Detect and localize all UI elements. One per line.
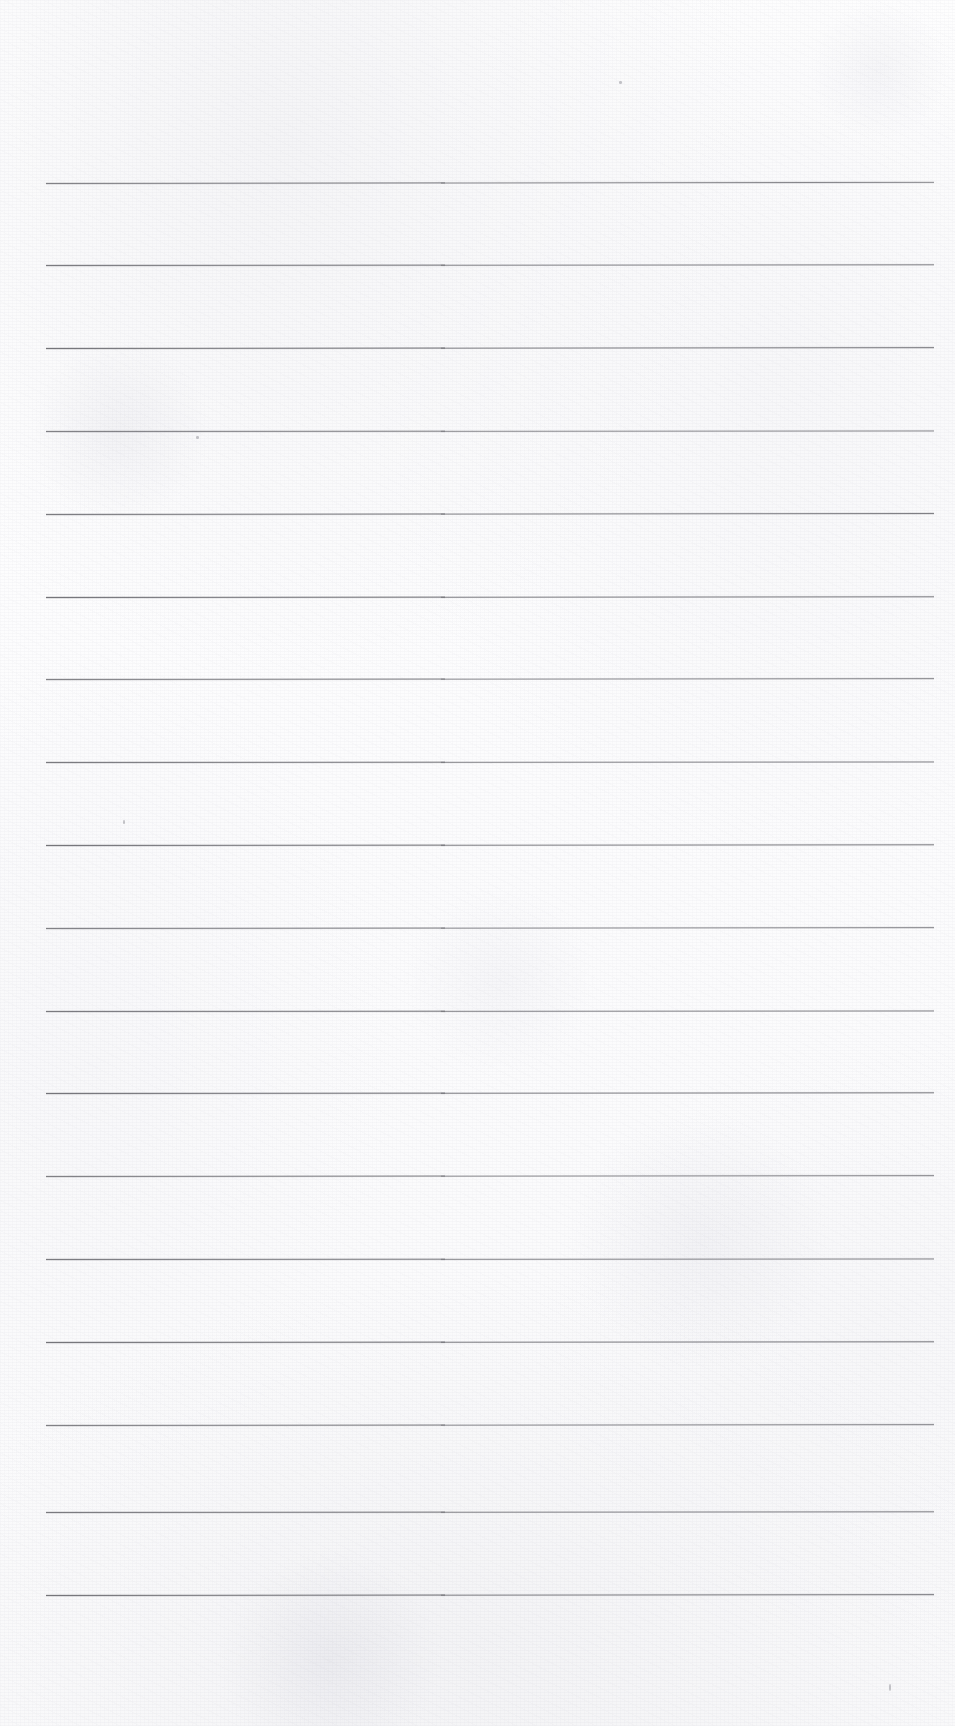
- ruled-line-segment-right: [441, 1592, 934, 1596]
- ruled-line-segment-left: [46, 1593, 445, 1596]
- ruled-line-segment-right: [441, 1257, 934, 1260]
- ruled-line-segment-right: [441, 1009, 934, 1012]
- ruled-line: [46, 264, 932, 268]
- scan-speck: [196, 436, 199, 439]
- ruled-line: [46, 1257, 932, 1261]
- ruled-line: [46, 1593, 932, 1597]
- ruled-line: [46, 595, 932, 599]
- ruled-line-segment-left: [46, 347, 445, 350]
- ruled-line-segment-right: [441, 181, 934, 185]
- ruled-line-segment-left: [46, 1340, 445, 1343]
- ruled-line-segment-left: [46, 1423, 445, 1426]
- ruled-line-segment-right: [441, 263, 934, 266]
- ruled-line: [46, 429, 932, 433]
- ruled-line-segment-left: [46, 761, 445, 764]
- ruled-line-segment-left: [46, 1009, 445, 1012]
- ruled-line: [46, 1423, 932, 1427]
- ruled-line-segment-left: [46, 1175, 445, 1178]
- ruled-line: [46, 1340, 932, 1344]
- ruled-line: [46, 926, 932, 930]
- ruled-line: [46, 1510, 932, 1514]
- scanned-page: [0, 0, 955, 1726]
- ruled-line-segment-right: [441, 1510, 934, 1513]
- scan-speck: [123, 820, 125, 824]
- ruled-line: [46, 180, 932, 184]
- ruled-line-segment-left: [46, 678, 445, 681]
- ruled-line: [46, 1092, 932, 1096]
- ruled-line-segment-right: [441, 760, 934, 763]
- scan-speck: [619, 81, 622, 84]
- ruled-line: [46, 1009, 932, 1013]
- ruled-line-segment-right: [441, 926, 934, 930]
- ruled-line-segment-right: [441, 347, 934, 351]
- ruled-line-segment-right: [441, 843, 934, 846]
- ruled-line-segment-left: [46, 1258, 445, 1261]
- ruled-line-segment-right: [441, 429, 934, 432]
- ruled-line-segment-right: [441, 1422, 934, 1426]
- scan-speck: [889, 1684, 891, 1691]
- ruled-line-segment-left: [46, 1092, 445, 1095]
- ruled-line: [46, 512, 932, 516]
- ruled-line-segment-left: [46, 181, 445, 185]
- ruled-line-segment-left: [46, 844, 445, 847]
- ruled-line: [46, 760, 932, 764]
- ruled-line-segment-left: [46, 264, 445, 267]
- ruled-line-segment-left: [46, 1510, 445, 1513]
- ruled-lines-layer: [0, 0, 955, 1726]
- ruled-line-segment-left: [46, 512, 445, 515]
- ruled-line: [46, 1174, 932, 1178]
- ruled-line-segment-left: [46, 595, 445, 598]
- ruled-line: [46, 346, 932, 350]
- ruled-line-segment-right: [441, 678, 934, 682]
- ruled-line-segment-left: [46, 926, 445, 929]
- ruled-line: [46, 843, 932, 847]
- ruled-line-segment-right: [441, 594, 934, 597]
- ruled-line-segment-right: [441, 512, 934, 516]
- ruled-line-segment-right: [441, 1175, 934, 1179]
- ruled-line-segment-right: [441, 1340, 934, 1343]
- ruled-line-segment-right: [441, 1091, 934, 1094]
- ruled-line: [46, 677, 932, 681]
- ruled-line-segment-left: [46, 430, 445, 433]
